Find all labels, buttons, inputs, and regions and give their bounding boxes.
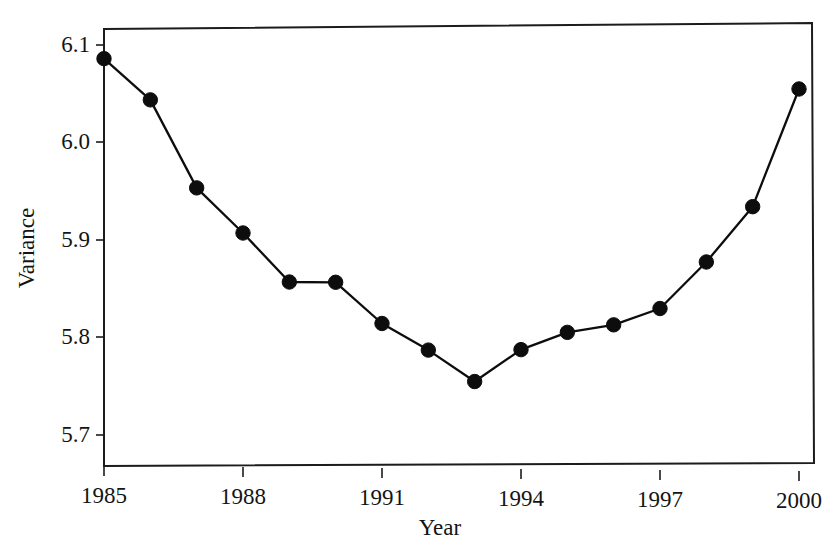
y-tick-label-4: 5.7 (61, 422, 90, 447)
data-point (421, 343, 435, 357)
data-point (97, 51, 111, 65)
data-point (606, 318, 620, 332)
x-tick-label-5: 2000 (776, 488, 822, 513)
x-axis-title: Year (419, 515, 462, 540)
data-point (143, 93, 157, 107)
axes-frame (104, 23, 814, 466)
series-line-variance (104, 59, 799, 382)
data-point (189, 181, 203, 195)
data-point (467, 374, 481, 388)
data-point (236, 226, 250, 240)
x-tick-label-1: 1988 (220, 484, 266, 509)
series-markers (97, 51, 806, 388)
y-tick-label-3: 5.8 (61, 324, 90, 349)
data-point (560, 325, 574, 339)
data-point (699, 255, 713, 269)
y-tick-label-1: 6.0 (61, 129, 90, 154)
y-axis-tick-labels: 6.1 6.0 5.9 5.8 5.7 (61, 32, 90, 447)
y-tick-label-0: 6.1 (61, 32, 90, 57)
variance-line-chart: 6.1 6.0 5.9 5.8 5.7 1985 1988 1991 1994 … (0, 0, 839, 552)
data-point (792, 82, 806, 96)
x-tick-label-2: 1991 (359, 485, 405, 510)
x-tick-label-0: 1985 (81, 483, 127, 508)
x-tick-label-3: 1994 (498, 486, 545, 511)
x-tick-label-4: 1997 (637, 487, 683, 512)
data-point (375, 316, 389, 330)
data-point (282, 275, 296, 289)
data-point (514, 342, 528, 356)
y-axis-ticks (96, 45, 104, 435)
x-axis-ticks (104, 466, 799, 481)
chart-figure: 6.1 6.0 5.9 5.8 5.7 1985 1988 1991 1994 … (0, 0, 839, 552)
data-point (745, 199, 759, 213)
data-point (328, 275, 342, 289)
x-axis-tick-labels: 1985 1988 1991 1994 1997 2000 (81, 483, 822, 513)
y-axis-title: Variance (14, 208, 39, 288)
y-tick-label-2: 5.9 (61, 227, 90, 252)
data-point (653, 301, 667, 315)
